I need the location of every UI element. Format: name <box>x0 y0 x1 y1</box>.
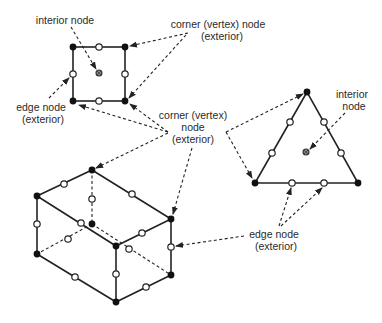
edge-node <box>78 220 84 226</box>
arrow-icon <box>310 113 345 149</box>
arrow-icon <box>176 236 244 246</box>
corner-node <box>70 98 77 105</box>
arrow-icon <box>281 188 322 226</box>
edge-node <box>122 71 128 77</box>
corner-node <box>89 221 96 228</box>
label-top-corner-line2: (exterior) <box>201 30 243 42</box>
corner-node <box>168 216 175 223</box>
edge-node <box>321 180 327 186</box>
edge-node <box>139 230 145 236</box>
corner-node <box>122 44 129 51</box>
hexahedron-element <box>34 167 175 306</box>
label-triangle-interior-line1: interior <box>336 88 369 100</box>
label-top-corner-line1: corner (vertex) node <box>171 18 266 30</box>
arrow-icon <box>226 94 303 132</box>
corner-node <box>113 299 120 306</box>
visible-edge <box>37 196 171 246</box>
arrow-icon <box>130 33 188 46</box>
arrow-icon <box>226 132 252 178</box>
corner-node <box>70 44 77 51</box>
arrow-icon <box>49 78 69 98</box>
corner-node <box>113 243 120 250</box>
corner-node <box>252 180 259 187</box>
interior-node <box>96 70 102 76</box>
arrow-icon <box>79 105 168 132</box>
edge-node <box>321 119 327 125</box>
corner-node <box>355 180 362 187</box>
corner-node <box>34 251 41 258</box>
edge-node <box>96 44 102 50</box>
visible-edge <box>37 170 171 219</box>
interior-node <box>303 149 309 155</box>
edge-node <box>65 236 71 242</box>
arrow-icon <box>96 133 168 168</box>
edge-node <box>129 191 135 197</box>
label-bottom-edge-line2: (exterior) <box>255 240 297 252</box>
corner-node <box>304 89 311 96</box>
edge-node <box>287 119 293 125</box>
edge-node <box>96 98 102 104</box>
edge-node <box>289 180 295 186</box>
edge-node <box>61 181 67 187</box>
edge-node <box>338 150 344 156</box>
corner-node <box>34 193 41 200</box>
edge-node <box>89 196 95 202</box>
edge-node <box>34 221 40 227</box>
quad-element <box>70 44 129 105</box>
visible-edge <box>37 254 171 302</box>
arrow-icon <box>279 188 291 226</box>
edge-node <box>126 246 132 252</box>
edge-node <box>143 284 149 290</box>
label-bottom-edge-line1: edge node <box>249 228 299 240</box>
edge-node <box>269 150 275 156</box>
label-left-edge-line2: (exterior) <box>22 113 64 125</box>
corner-node <box>122 98 129 105</box>
label-middle-corner-line3: (exterior) <box>172 133 214 145</box>
edge-node <box>168 244 174 250</box>
fem-node-diagram: interior node corner (vertex) node (exte… <box>0 0 382 323</box>
corner-node <box>168 272 175 279</box>
label-middle-corner-line2: node <box>181 121 205 133</box>
edge-node <box>113 271 119 277</box>
edge-node <box>72 274 78 280</box>
corner-node <box>89 167 96 174</box>
label-square-interior: interior node <box>36 14 95 26</box>
label-left-edge-line1: edge node <box>16 101 66 113</box>
arrow-icon <box>173 148 192 214</box>
edge-node <box>70 71 76 77</box>
label-triangle-interior-line2: node <box>342 100 366 112</box>
label-middle-corner-line1: corner (vertex) <box>159 109 227 121</box>
